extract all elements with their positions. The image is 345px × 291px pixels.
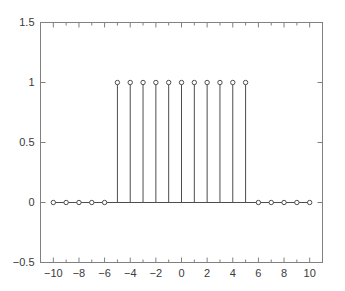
stem-marker [77, 200, 81, 204]
stem-marker [307, 200, 311, 204]
stem-marker [256, 200, 260, 204]
x-tick-label: 10 [304, 267, 316, 279]
stem-marker [282, 200, 286, 204]
x-tick-label: 2 [204, 267, 210, 279]
stem-marker [115, 80, 119, 84]
stem-marker [269, 200, 273, 204]
x-tick-label: −2 [150, 267, 163, 279]
y-tick-label: 1.5 [19, 16, 34, 28]
stem-marker [166, 80, 170, 84]
stem-marker [141, 80, 145, 84]
stem-marker [90, 200, 94, 204]
x-tick-label: 8 [281, 267, 287, 279]
stem-marker [128, 80, 132, 84]
stem-marker [179, 80, 183, 84]
y-tick-label: −0.5 [13, 256, 35, 268]
stem-marker [51, 200, 55, 204]
stem-marker [102, 200, 106, 204]
x-tick-label: 4 [230, 267, 236, 279]
x-tick-label: −4 [124, 267, 137, 279]
stem-marker [231, 80, 235, 84]
x-tick-label: −6 [98, 267, 111, 279]
stem-marker [218, 80, 222, 84]
stem-marker [295, 200, 299, 204]
stem-marker [154, 80, 158, 84]
stem-marker [205, 80, 209, 84]
x-tick-label: 6 [255, 267, 261, 279]
plot-canvas: −10−8−6−4−20246810−0.500.511.5 [0, 0, 345, 291]
y-tick-label: 1 [28, 76, 34, 88]
stem-marker [243, 80, 247, 84]
x-tick-label: 0 [178, 267, 184, 279]
x-tick-label: −8 [73, 267, 86, 279]
x-tick-label: −10 [44, 267, 63, 279]
stem-marker [64, 200, 68, 204]
y-tick-label: 0 [28, 196, 34, 208]
y-tick-label: 0.5 [19, 136, 34, 148]
stem-marker [192, 80, 196, 84]
stem-plot-figure: −10−8−6−4−20246810−0.500.511.5 [0, 0, 345, 291]
